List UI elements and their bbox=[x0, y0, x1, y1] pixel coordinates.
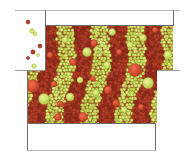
large-red-particle bbox=[138, 104, 144, 110]
large-green-particle bbox=[66, 93, 74, 101]
large-green-particle bbox=[109, 29, 116, 36]
large-red-particle bbox=[27, 80, 40, 93]
large-red-particle bbox=[79, 113, 88, 122]
falling-particles bbox=[26, 20, 42, 68]
falling-particle bbox=[31, 50, 35, 54]
falling-particle bbox=[38, 44, 42, 48]
large-red-particle bbox=[47, 52, 53, 58]
falling-particle bbox=[26, 56, 29, 59]
falling-particle bbox=[26, 20, 30, 24]
large-green-particle bbox=[83, 48, 92, 57]
falling-particle bbox=[33, 32, 37, 36]
large-red-particle bbox=[70, 59, 77, 66]
large-red-particle bbox=[91, 77, 96, 82]
large-green-particle bbox=[143, 78, 154, 89]
large-red-particle bbox=[116, 49, 122, 55]
particle-bed bbox=[20, 20, 182, 130]
falling-particle bbox=[37, 54, 40, 57]
large-green-particle bbox=[127, 42, 133, 48]
large-green-particle bbox=[39, 94, 50, 105]
large-green-particle bbox=[77, 77, 83, 83]
large-green-particle bbox=[121, 107, 127, 113]
large-red-particle bbox=[152, 27, 158, 33]
large-red-particle bbox=[91, 40, 98, 47]
large-red-particle bbox=[55, 114, 62, 121]
large-red-particle bbox=[51, 81, 57, 87]
large-green-particle bbox=[93, 90, 99, 96]
large-green-particle bbox=[104, 62, 111, 69]
large-red-particle bbox=[129, 64, 142, 77]
large-green-particle bbox=[140, 35, 147, 42]
granular-flow-diagram bbox=[0, 0, 190, 163]
large-green-particle bbox=[164, 51, 172, 59]
large-green-particle bbox=[62, 37, 68, 43]
large-red-particle bbox=[57, 101, 63, 107]
large-red-particle bbox=[113, 100, 120, 107]
large-red-particle bbox=[104, 86, 112, 94]
falling-particle bbox=[32, 64, 36, 68]
